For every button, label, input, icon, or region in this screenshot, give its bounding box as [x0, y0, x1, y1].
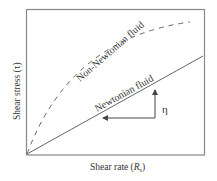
rheology-diagram: η Non-Newtonian fluid Newtonian fluid Sh…: [0, 0, 217, 181]
non-newtonian-label: Non-Newtonian fluid: [74, 19, 146, 84]
plot-frame: [27, 10, 205, 156]
y-axis-label: Shear stress (τ): [12, 62, 23, 120]
slope-label: η: [162, 103, 168, 115]
newtonian-line: [27, 56, 203, 154]
non-newtonian-curve: [27, 22, 190, 154]
newtonian-label: Newtonian fluid: [93, 72, 155, 113]
x-axis-label: Shear rate (Rs): [90, 162, 145, 173]
